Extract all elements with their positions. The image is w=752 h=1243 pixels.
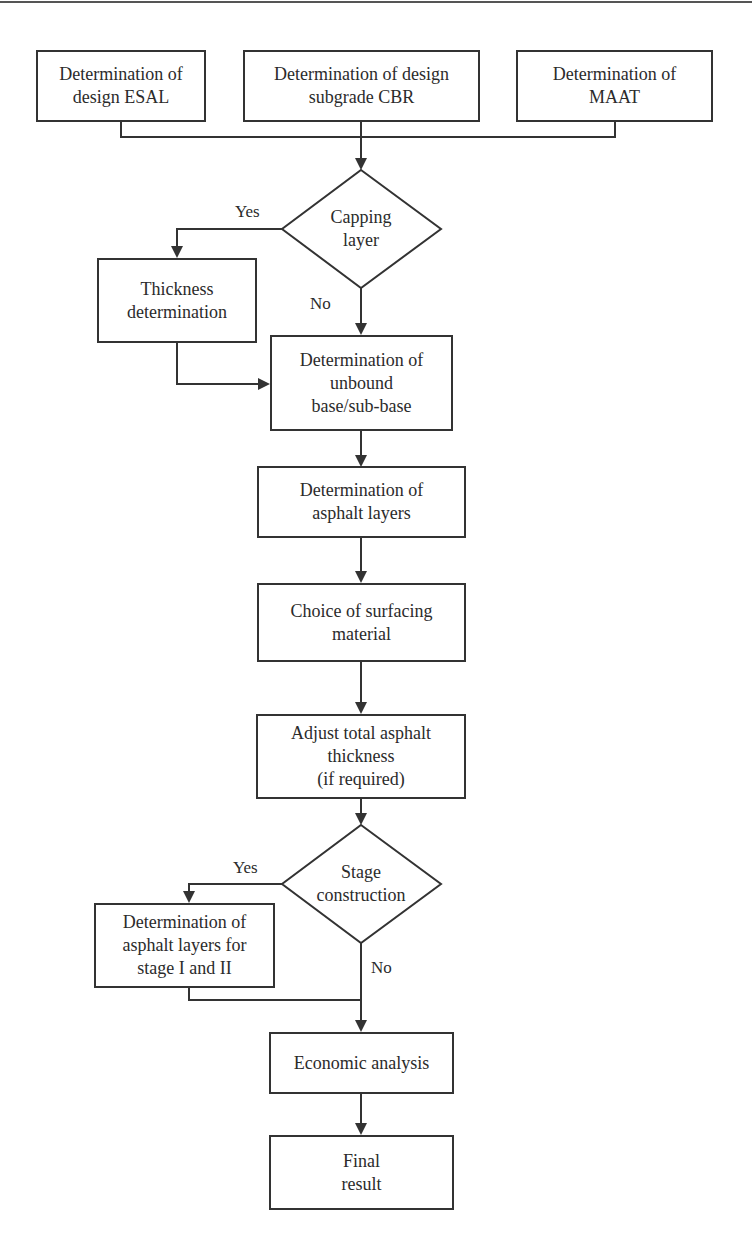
decision-stage-label: Stage construction — [291, 855, 431, 913]
node-label: Determination of design subgrade CBR — [274, 63, 449, 109]
capping-yes-label: Yes — [235, 202, 260, 222]
node-final-result: Final result — [269, 1135, 454, 1210]
node-design-subgrade-cbr: Determination of design subgrade CBR — [243, 50, 480, 122]
connector-thickness-to-base — [177, 342, 268, 384]
capping-no-label: No — [310, 294, 331, 314]
node-label: Choice of surfacing material — [291, 600, 433, 646]
node-label: Economic analysis — [294, 1052, 429, 1075]
connector-stage-layers-merge — [189, 988, 361, 1000]
node-label: Adjust total asphalt thickness (if requi… — [291, 722, 431, 791]
node-label: Final result — [342, 1150, 382, 1196]
node-label: Determination of asphalt layers for stag… — [123, 911, 247, 980]
stage-yes-label: Yes — [233, 858, 258, 878]
decision-capping-label: Capping layer — [301, 200, 421, 258]
connector-capping-yes — [177, 229, 282, 256]
node-maat: Determination of MAAT — [516, 50, 713, 122]
node-economic-analysis: Economic analysis — [269, 1032, 454, 1094]
node-stage-asphalt-layers: Determination of asphalt layers for stag… — [94, 903, 275, 988]
node-asphalt-layers: Determination of asphalt layers — [257, 466, 466, 538]
connector-esal — [121, 121, 615, 137]
node-label: Thickness determination — [127, 278, 227, 324]
node-design-esal: Determination of design ESAL — [36, 50, 206, 122]
node-label: Determination of design ESAL — [59, 63, 182, 109]
node-unbound-base: Determination of unbound base/sub-base — [270, 335, 453, 431]
connector-stage-yes — [189, 884, 282, 901]
node-label: Determination of MAAT — [553, 63, 676, 109]
stage-no-label: No — [371, 958, 392, 978]
node-surfacing-material: Choice of surfacing material — [257, 583, 466, 662]
node-thickness-determination: Thickness determination — [97, 258, 257, 343]
node-adjust-asphalt-thickness: Adjust total asphalt thickness (if requi… — [256, 714, 466, 799]
node-label: Determination of unbound base/sub-base — [300, 349, 423, 418]
node-label: Determination of asphalt layers — [300, 479, 423, 525]
